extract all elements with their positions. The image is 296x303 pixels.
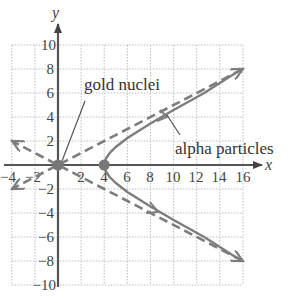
gold-nucleus-point [53,160,64,171]
alpha-particles-label: alpha particles [175,139,274,158]
y-tick: −2 [38,181,54,197]
x-tick: 6 [123,169,131,185]
hyperbola-chart: x y −4 −2 2 4 6 8 10 12 14 16 10 8 6 4 2… [0,0,296,303]
x-tick: 8 [146,169,154,185]
y-tick: −4 [38,205,54,221]
x-axis-label: x [264,156,272,173]
y-tick: −10 [33,277,56,293]
y-tick: 2 [47,133,55,149]
gold-nuclei-pointer [62,101,85,161]
y-tick: −6 [38,229,54,245]
y-tick: −8 [38,253,54,269]
x-tick: 14 [212,169,228,185]
y-tick: 4 [47,109,55,125]
x-tick: −4 [0,169,16,185]
vertex-point [99,160,110,171]
y-tick: 6 [47,85,55,101]
x-tick: 16 [236,169,252,185]
y-tick: 10 [41,37,56,53]
y-axis-label: y [50,4,60,22]
x-tick: 12 [189,169,204,185]
gold-nuclei-label: gold nuclei [84,75,160,94]
y-tick: 8 [47,61,55,77]
x-tick: 10 [166,169,181,185]
